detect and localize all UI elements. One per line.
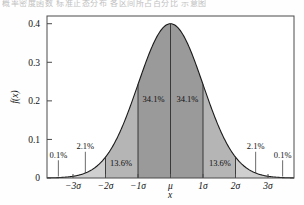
- normal-distribution-chart: 00.10.20.30.4 −3σ−2σ−1σμ1σ2σ3σ 0.1%2.1%1…: [0, 0, 304, 205]
- y-tick-label: 0: [35, 173, 40, 183]
- y-tick-label: 0.2: [28, 96, 40, 106]
- percent-label: 2.1%: [247, 141, 265, 151]
- y-tick-label: 0.4: [28, 19, 40, 29]
- x-tick-label: 3σ: [262, 181, 273, 191]
- percent-label: 13.6%: [110, 158, 132, 168]
- x-axis-title: x: [167, 190, 173, 200]
- percent-label: 0.1%: [50, 150, 68, 160]
- percent-label: 34.1%: [176, 94, 198, 104]
- x-tick-label: −2σ: [98, 181, 114, 191]
- percent-label: 2.1%: [76, 141, 94, 151]
- x-tick-label: −1σ: [130, 181, 146, 191]
- y-tick-label: 0.1: [28, 135, 40, 145]
- x-tick-label: 2σ: [231, 181, 241, 191]
- percent-label: 13.6%: [209, 158, 231, 168]
- y-tick-label: 0.3: [28, 58, 40, 68]
- x-tick-label: −3σ: [65, 181, 81, 191]
- percent-label: 34.1%: [143, 94, 165, 104]
- x-tick-label: 1σ: [198, 181, 208, 191]
- figure-page: 概率密度函数 标准正态分布 各区间所占百分比 示意图 00.10.20.30.4…: [0, 0, 304, 205]
- percent-label: 0.1%: [274, 150, 292, 160]
- y-axis-title: f(x): [10, 90, 21, 103]
